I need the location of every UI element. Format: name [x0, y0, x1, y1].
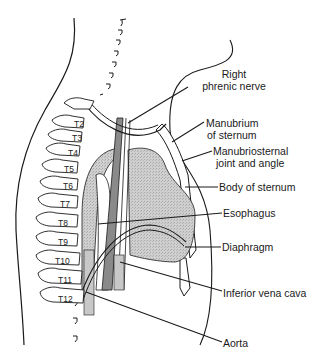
svg-text:T9: T9	[58, 237, 68, 247]
leader-manubrium	[172, 122, 204, 142]
svg-text:T5: T5	[64, 164, 74, 174]
leader-ivc	[120, 262, 222, 291]
label-manubriosternal: Manubriosternal joint and angle	[213, 145, 288, 169]
label-diaphragm: Diaphragm	[222, 241, 273, 253]
thorax-sagittal-diagram: T2 T3 T4 T5 T6 T7 T8 T9 T10 T11 T12	[0, 0, 318, 360]
vertebra-t11: T11	[38, 268, 82, 285]
svg-text:T4: T4	[68, 148, 78, 158]
svg-text:T10: T10	[55, 256, 70, 266]
vertebra-t2: T2	[52, 115, 84, 129]
cervical-spine	[100, 19, 126, 95]
label-body-of-sternum: Body of sternum	[219, 181, 295, 193]
first-rib-inner	[88, 100, 158, 129]
label-aorta: Aorta	[223, 337, 248, 349]
vertebra-t1	[64, 98, 94, 109]
vertebra-t8: T8	[36, 212, 78, 228]
svg-text:T2: T2	[74, 119, 84, 129]
vertebra-t7: T7	[38, 193, 78, 209]
label-line: Right	[190, 68, 278, 80]
svg-text:T7: T7	[60, 199, 70, 209]
label-right-phrenic-nerve: Right phrenic nerve	[190, 68, 278, 92]
label-line: joint and angle	[213, 157, 288, 169]
label-line: Manubrium	[206, 117, 259, 129]
label-manubrium: Manubrium of sternum	[206, 117, 259, 141]
svg-text:T11: T11	[58, 275, 72, 285]
lumbar-spine	[73, 300, 77, 342]
label-line: Manubriosternal	[213, 145, 288, 157]
vertebra-t10: T10	[36, 250, 80, 266]
leader-right-phrenic-nerve	[128, 87, 188, 123]
label-line: of sternum	[206, 129, 259, 141]
svg-text:T8: T8	[58, 218, 68, 228]
leader-manubriosternal	[182, 151, 212, 161]
leader-aorta	[86, 292, 222, 342]
vertebra-t5: T5	[42, 159, 78, 174]
svg-text:T3: T3	[72, 133, 82, 143]
svg-text:T12: T12	[58, 294, 73, 304]
vertebra-t3: T3	[48, 129, 82, 143]
vertebra-t6: T6	[40, 176, 78, 191]
label-esophagus: Esophagus	[223, 207, 276, 219]
label-line: phrenic nerve	[190, 80, 278, 92]
label-inferior-vena-cava: Inferior vena cava	[223, 287, 306, 299]
vertebra-t4: T4	[46, 143, 80, 158]
vertebra-t9: T9	[36, 231, 78, 247]
ivc-shape	[114, 255, 124, 290]
vertebra-t12: T12	[40, 287, 84, 304]
svg-text:T6: T6	[63, 181, 73, 191]
